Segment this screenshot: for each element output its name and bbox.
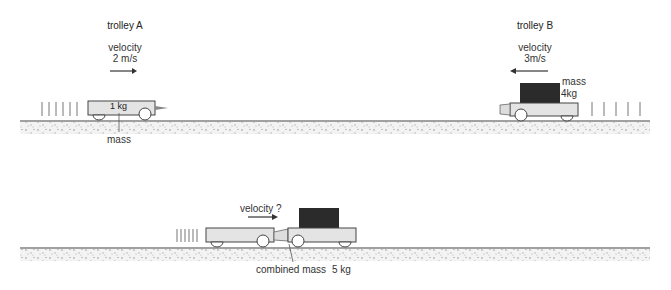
ground-top	[20, 121, 650, 134]
arrow-right-icon	[248, 214, 278, 220]
trolley-b-velocity-label: velocity	[510, 42, 560, 53]
motion-lines-b	[592, 102, 640, 116]
arrow-right-icon	[110, 68, 137, 74]
motion-lines-combined	[177, 229, 197, 242]
trolley-a-mass-label: mass	[107, 134, 131, 145]
trolley-b-mass-value: 4kg	[561, 88, 577, 99]
trolley-b-velocity-value: 3m/s	[510, 53, 560, 64]
trolley-a-velocity-value: 2 m/s	[95, 53, 155, 64]
combined-velocity-label: velocity ?	[240, 203, 282, 214]
ground-bottom	[20, 248, 650, 261]
trolley-a-title: trolley A	[95, 20, 155, 31]
combined-mass-value: 5 kg	[332, 264, 351, 275]
trolley-a-velocity-label: velocity	[95, 42, 155, 53]
trolley-b-mass-label: mass	[562, 76, 586, 87]
trolley-b-title: trolley B	[510, 20, 560, 31]
trolley-a-mass-text: 1 kg	[110, 101, 127, 111]
motion-lines-a	[42, 102, 77, 116]
combined-mass-label: combined mass	[256, 264, 326, 275]
arrow-left-icon	[510, 68, 548, 74]
